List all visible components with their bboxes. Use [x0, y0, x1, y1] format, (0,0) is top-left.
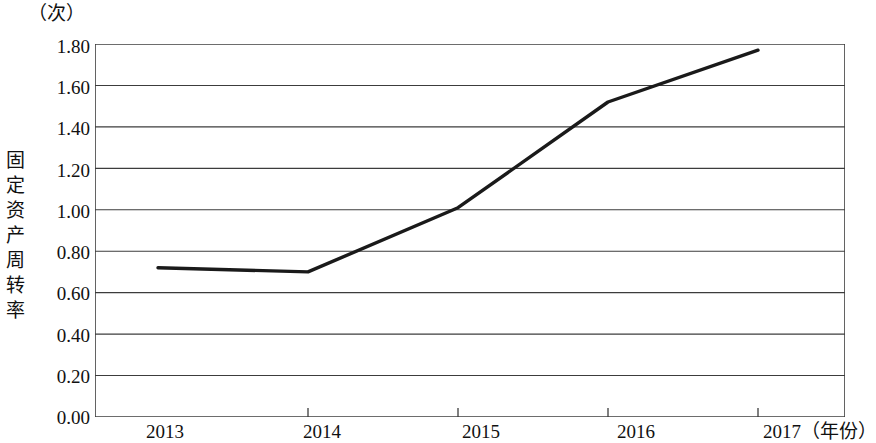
y-tick-label: 0.60: [28, 284, 90, 303]
y-tick-label: 1.20: [28, 161, 90, 180]
chart-svg: [95, 44, 845, 417]
y-tick-label: 0.40: [28, 326, 90, 345]
x-tick-label-2016: 2016: [617, 421, 655, 443]
x-tick-label-2014: 2014: [303, 421, 341, 443]
y-tick-label: 0.20: [28, 367, 90, 386]
y-axis-tick-label-group: 1.80 1.60 1.40 1.20 1.00 0.80 0.60 0.40 …: [28, 0, 90, 443]
y-tick-label: 1.60: [28, 78, 90, 97]
data-series-line: [158, 50, 758, 272]
x-tick-label-2013: 2013: [146, 421, 184, 443]
x-axis-tick-label-group: 2013 2014 2015 2016 2017（年份）: [0, 421, 876, 443]
y-tick-label: 1.40: [28, 119, 90, 138]
line-chart-figure: （次） 固定资产周转率 1.80 1.60 1.40 1.20 1.00 0.8…: [0, 0, 876, 443]
y-tick-label: 1.80: [28, 37, 90, 56]
y-axis-title: 固定资产周转率: [2, 148, 28, 323]
x-tick-mark-group: [308, 408, 758, 417]
y-tick-label: 1.00: [28, 202, 90, 221]
x-tick-label-2017: 2017（年份）: [763, 421, 876, 443]
gridline-group: [95, 44, 845, 417]
plot-area: [95, 44, 845, 417]
axis-group: [95, 44, 845, 417]
x-tick-label-2015: 2015: [462, 421, 500, 443]
y-tick-label: 0.80: [28, 243, 90, 262]
